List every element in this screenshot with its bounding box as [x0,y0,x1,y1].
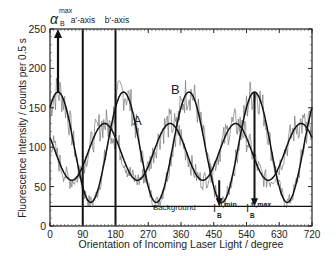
b-axis-label: b'-axis [105,15,129,25]
y-tick-label: 250 [28,23,46,35]
alpha-sup: max [59,7,73,14]
imin-label: I [213,202,216,214]
curve-b-label: B [171,82,180,97]
alpha-label: α [50,11,59,27]
y-tick-label: 100 [28,141,46,153]
curve-a-label: A [133,113,142,128]
y-tick-label: 150 [28,102,46,114]
fit-curves [50,92,312,202]
x-tick-label: 0 [47,229,53,240]
imax-label: I [246,202,249,214]
x-tick-label: 720 [304,229,321,240]
y-tick-label: 0 [40,220,46,232]
y-axis-label: Fluorescence Intensity / counts per 0.5 … [17,38,28,218]
y-tick-label: 50 [34,181,46,193]
imax-sub: B [250,212,255,219]
x-axis-label: Orientation of Incoming Laser Light / de… [79,238,284,250]
y-tick-label: 200 [28,62,46,74]
raw-trace-B [50,78,312,209]
background-label: Background [153,203,196,212]
imax-sup: fl,max [251,201,271,209]
a-axis-label: a'-axis [71,15,95,25]
raw-data-traces [50,78,312,209]
imin-sub: B [217,212,222,219]
chart: 090180270360450540630720050100150200250 … [0,0,336,256]
imin-sup: fl,min [218,201,237,209]
alpha-sub: B [60,20,65,27]
